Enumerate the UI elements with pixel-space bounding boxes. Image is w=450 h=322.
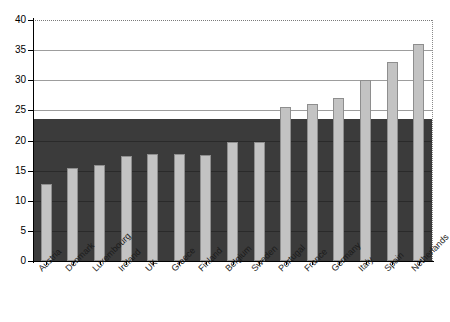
bar-netherlands — [413, 44, 424, 261]
y-tick-mark-10 — [28, 201, 33, 202]
right-plot-edge — [432, 20, 433, 261]
y-tick-label-30: 30 — [2, 75, 26, 85]
y-axis-line — [33, 18, 34, 263]
bar-belgium — [227, 142, 238, 261]
bar-france — [307, 104, 318, 261]
gridline-30 — [33, 80, 432, 81]
gridline-25 — [33, 110, 432, 111]
bar-greece — [174, 154, 185, 261]
bar-spain — [387, 62, 398, 261]
bar-austria — [41, 184, 52, 261]
y-tick-label-10: 10 — [2, 196, 26, 206]
y-tick-mark-25 — [28, 110, 33, 111]
bar-portugal — [280, 107, 291, 261]
y-tick-mark-35 — [28, 50, 33, 51]
y-tick-mark-5 — [28, 231, 33, 232]
y-tick-label-15: 15 — [2, 166, 26, 176]
bar-finland — [200, 155, 211, 261]
y-tick-mark-40 — [28, 20, 33, 21]
gridline-35 — [33, 50, 432, 51]
y-tick-mark-0 — [28, 261, 33, 262]
y-tick-label-5: 5 — [2, 226, 26, 236]
y-tick-mark-30 — [28, 80, 33, 81]
y-tick-label-25: 25 — [2, 105, 26, 115]
y-tick-label-20: 20 — [2, 136, 26, 146]
y-tick-label-35: 35 — [2, 45, 26, 55]
y-tick-label-40: 40 — [2, 15, 26, 25]
bar-sweden — [254, 142, 265, 261]
bar-uk — [147, 154, 158, 261]
y-tick-mark-20 — [28, 141, 33, 142]
top-dotted-boundary — [33, 20, 432, 21]
y-tick-label-0: 0 — [2, 256, 26, 266]
bar-denmark — [67, 168, 78, 261]
y-tick-mark-15 — [28, 171, 33, 172]
bar-italy — [360, 80, 371, 261]
bar-germany — [333, 98, 344, 261]
